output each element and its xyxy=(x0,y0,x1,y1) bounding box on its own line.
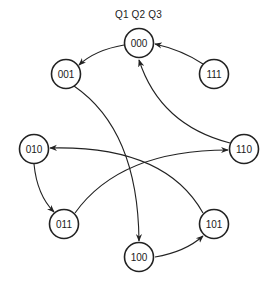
state-label: 011 xyxy=(56,219,72,230)
state-node-001: 001 xyxy=(52,60,81,89)
state-node-100: 100 xyxy=(125,243,154,272)
transition-100-to-101 xyxy=(155,236,203,257)
state-label: 000 xyxy=(131,38,148,49)
state-label: 010 xyxy=(26,144,43,155)
state-label: 110 xyxy=(236,144,252,155)
state-diagram: Q1 Q2 Q3 0000011110101100 xyxy=(0,0,277,290)
state-node-000: 000 xyxy=(125,29,154,58)
diagram-svg: 000001111010110011101100 xyxy=(0,0,277,290)
transition-011-to-110 xyxy=(75,150,228,213)
state-node-111: 111 xyxy=(200,60,229,89)
state-node-101: 101 xyxy=(200,210,229,239)
state-node-110: 110 xyxy=(230,135,259,164)
state-label: 101 xyxy=(206,219,223,230)
state-label: 100 xyxy=(131,252,148,263)
transition-010-to-011 xyxy=(34,164,54,212)
state-label: 111 xyxy=(206,69,222,80)
state-node-011: 011 xyxy=(50,210,79,239)
state-label: 001 xyxy=(58,69,75,80)
state-node-010: 010 xyxy=(20,135,49,164)
transition-111-to-000 xyxy=(155,44,203,64)
transition-000-to-001 xyxy=(79,45,124,65)
state-bits-header: Q1 Q2 Q3 xyxy=(0,9,277,20)
transition-001-to-100 xyxy=(74,86,139,241)
